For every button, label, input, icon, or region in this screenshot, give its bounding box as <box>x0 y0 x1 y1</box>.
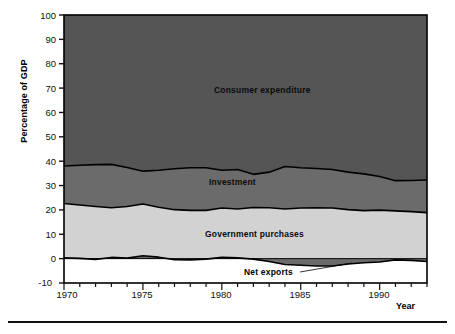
chart-figure: Percentage of GDP Year 100 90 80 70 60 5… <box>0 0 455 334</box>
area-consumer-expenditure <box>64 15 427 181</box>
series-label-net-exports: Net exports <box>244 267 293 277</box>
series-label-investment: Investment <box>209 177 256 187</box>
series-label-consumer-expenditure: Consumer expenditure <box>214 85 311 95</box>
chart-plot-area <box>0 0 455 334</box>
footer-divider <box>8 321 447 323</box>
series-label-government-purchases: Government purchases <box>205 229 304 239</box>
